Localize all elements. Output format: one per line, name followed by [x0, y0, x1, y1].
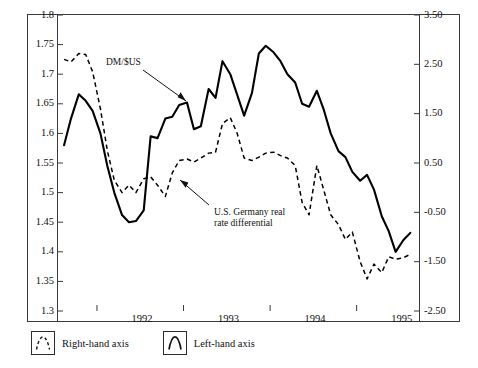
x-axis-ticks: [97, 305, 357, 311]
x-axis-tick-label: 1993: [199, 314, 259, 325]
chart-figure: 1.81.751.71.651.61.551.51.451.41.351.3 3…: [0, 0, 478, 368]
rate-differential-annotation-label: U.S. Germany real rate differential: [214, 207, 285, 229]
right-axis-tick-label: 3.50: [419, 10, 459, 21]
left-axis-tick-label: 1.45: [27, 217, 57, 228]
left-axis-tick-label: 1.3: [27, 306, 57, 317]
legend-item-right-hand-axis: Right-hand axis: [31, 331, 129, 355]
left-axis-tick-label: 1.7: [27, 69, 57, 80]
left-axis-tick-label: 1.6: [27, 128, 57, 139]
legend-label-right-hand-axis: Right-hand axis: [62, 338, 129, 349]
x-axis-tick-label: 1994: [285, 314, 345, 325]
right-axis-tick-label: 1.50: [419, 108, 459, 119]
x-axis-tick-label: 1995: [372, 314, 432, 325]
right-axis-tick-label: -1.50: [419, 256, 459, 267]
right-axis-tick-label: 2.50: [419, 59, 459, 70]
x-axis-tick-label: 1992: [112, 314, 172, 325]
left-axis-tick-label: 1.5: [27, 187, 57, 198]
right-axis-tick-label: -0.50: [419, 207, 459, 218]
rate-differential-arrow: [180, 180, 209, 205]
left-axis-ticks: [58, 15, 63, 311]
series-line-rate-differential: [64, 53, 410, 278]
right-axis-tick-label: 0.50: [419, 158, 459, 169]
left-axis-tick-label: 1.8: [27, 10, 57, 21]
left-axis-tick-label: 1.35: [27, 276, 57, 287]
left-axis-tick-label: 1.55: [27, 158, 57, 169]
chart-legend: Right-hand axis Left-hand axis: [31, 331, 289, 355]
dm-usd-annotation-label: DM/$US: [106, 57, 141, 68]
left-axis-tick-label: 1.75: [27, 39, 57, 50]
left-axis-tick-label: 1.4: [27, 246, 57, 257]
legend-label-left-hand-axis: Left-hand axis: [194, 338, 255, 349]
peak-arc-icon: [166, 335, 184, 351]
peak-arc-icon: [34, 335, 52, 351]
left-axis-tick-label: 1.65: [27, 98, 57, 109]
legend-swatch-solid: [163, 331, 187, 355]
legend-item-left-hand-axis: Left-hand axis: [163, 331, 255, 355]
dm-usd-arrow: [143, 70, 186, 101]
legend-swatch-dashed: [31, 331, 55, 355]
